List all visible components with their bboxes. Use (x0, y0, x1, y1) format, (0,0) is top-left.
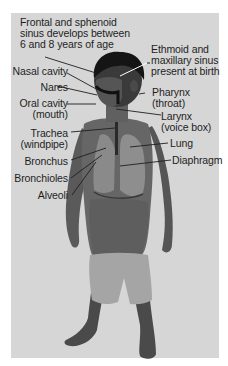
label-nares: Nares (40, 82, 68, 93)
belly (89, 199, 148, 256)
ear (130, 80, 138, 92)
label-diaphragm: Diaphragm (172, 155, 222, 166)
label-trachea: Trachea (windpipe) (21, 128, 68, 150)
label-ethmoid-maxillary-sinus: Ethmoid and maxillary sinus present at b… (151, 44, 219, 77)
label-bronchioles: Bronchioles (14, 173, 68, 184)
label-bronchus: Bronchus (24, 156, 68, 167)
label-nasal-cavity: Nasal cavity (13, 66, 68, 77)
shorts (89, 253, 152, 305)
label-oral-cavity: Oral cavity (mouth) (20, 98, 69, 120)
label-larynx: Larynx (voice box) (161, 111, 211, 133)
label-lung: Lung (170, 138, 193, 149)
label-frontal-sphenoid-sinus: Frontal and sphenoid sinus develops betw… (20, 17, 130, 50)
label-alveoli: Alveoli (38, 190, 68, 201)
label-pharynx: Pharynx (throat) (152, 87, 190, 109)
